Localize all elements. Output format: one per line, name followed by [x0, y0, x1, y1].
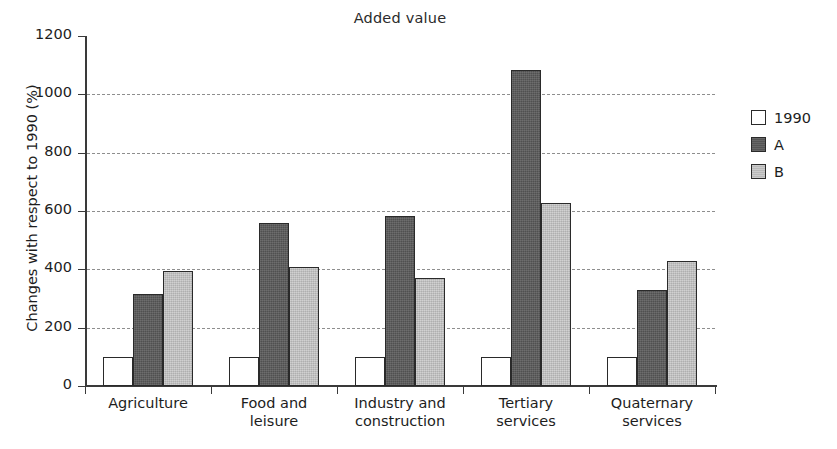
y-axis-tick-label: 600 — [12, 201, 72, 217]
y-axis-tick-label: 400 — [12, 259, 72, 275]
category-label-line: services — [572, 412, 732, 430]
x-axis-tick — [337, 385, 338, 394]
chart-screenshot: Added value Changes with respect to 1990… — [0, 0, 837, 449]
x-axis-tick — [85, 385, 86, 394]
x-axis-tick — [463, 385, 464, 394]
x-axis-tick — [211, 385, 212, 394]
chart-legend: 1990AB — [751, 104, 831, 185]
plot-area: 020040060080010001200 — [85, 36, 715, 386]
x-axis-tick — [589, 385, 590, 394]
x-axis-tick — [715, 385, 716, 394]
legend-swatch-1990 — [751, 110, 766, 125]
legend-label: A — [774, 137, 784, 153]
y-axis-tick: 200 — [78, 328, 87, 329]
y-axis-tick-label: 1000 — [12, 84, 72, 100]
legend-item-a: A — [751, 131, 831, 158]
y-axis-tick-label: 1200 — [12, 26, 72, 42]
bar-b-4 — [541, 203, 571, 386]
legend-item-b: B — [751, 158, 831, 185]
gridline — [87, 94, 715, 95]
bar-a-2 — [259, 223, 289, 386]
y-axis-tick-label: 800 — [12, 143, 72, 159]
gridline — [87, 153, 715, 154]
bar-1990-2 — [229, 357, 259, 386]
bar-1990-1 — [103, 357, 133, 386]
y-axis-tick: 400 — [78, 269, 87, 270]
chart-title: Added value — [300, 10, 500, 26]
bar-a-1 — [133, 294, 163, 386]
y-axis-tick-label: 200 — [12, 318, 72, 334]
legend-label: 1990 — [774, 110, 811, 126]
x-axis-category-label: Quaternaryservices — [572, 394, 732, 430]
y-axis-tick: 600 — [78, 211, 87, 212]
bar-b-1 — [163, 271, 193, 386]
y-axis-tick: 800 — [78, 153, 87, 154]
legend-swatch-a — [751, 137, 766, 152]
bar-b-3 — [415, 278, 445, 387]
legend-swatch-b — [751, 164, 766, 179]
gridline — [87, 211, 715, 212]
bar-b-5 — [667, 261, 697, 386]
bar-1990-5 — [607, 357, 637, 386]
bar-a-5 — [637, 290, 667, 386]
category-label-line: Quaternary — [572, 394, 732, 412]
y-axis-tick: 1000 — [78, 94, 87, 95]
bar-a-3 — [385, 216, 415, 386]
legend-item-1990: 1990 — [751, 104, 831, 131]
bar-1990-3 — [355, 357, 385, 386]
bar-1990-4 — [481, 357, 511, 386]
y-axis-tick: 1200 — [78, 36, 87, 37]
legend-label: B — [774, 164, 784, 180]
y-axis-tick-label: 0 — [12, 376, 72, 392]
bar-a-4 — [511, 70, 541, 386]
bar-b-2 — [289, 267, 319, 386]
